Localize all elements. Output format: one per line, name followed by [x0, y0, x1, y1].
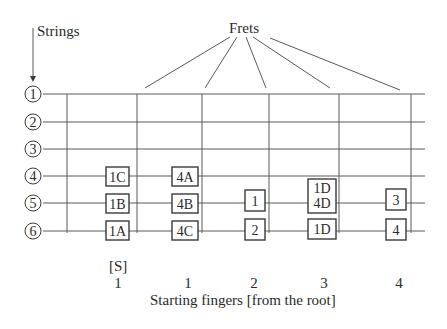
string-number-4: 4	[25, 168, 41, 184]
svg-text:4D: 4D	[313, 196, 330, 211]
svg-text:1: 1	[30, 87, 37, 102]
svg-text:2: 2	[30, 115, 37, 130]
finger-box: 1B	[106, 194, 129, 213]
finger-box: 2	[245, 219, 265, 240]
svg-text:4: 4	[30, 169, 37, 184]
strings-label: Strings	[37, 23, 80, 39]
arrow-down-icon	[30, 76, 36, 82]
frets-leader-lines	[145, 37, 400, 90]
finger-box: 1D4D	[308, 179, 336, 213]
s-marker-label: [S]	[109, 258, 127, 274]
string-number-circles: 123456	[25, 86, 41, 239]
svg-text:4A: 4A	[176, 170, 194, 185]
svg-text:4C: 4C	[177, 224, 193, 239]
fretboard-diagram: Strings Frets 123456 1C1B1A4A4B4C121D4D1…	[0, 0, 447, 329]
svg-text:2: 2	[252, 223, 259, 238]
finger-box: 1D	[308, 219, 336, 239]
svg-text:1: 1	[252, 194, 259, 209]
string-number-3: 3	[25, 141, 41, 157]
svg-text:3: 3	[30, 142, 37, 157]
svg-text:1D: 1D	[313, 222, 330, 237]
svg-text:4: 4	[393, 223, 400, 238]
string-number-5: 5	[25, 195, 41, 211]
finger-box: 4C	[172, 221, 198, 240]
finger-box: 1	[245, 190, 265, 211]
string-number-1: 1	[25, 86, 41, 102]
finger-box: 3	[386, 189, 406, 210]
finger-number: 4	[395, 275, 403, 291]
finger-box: 4A	[172, 167, 198, 186]
string-number-2: 2	[25, 114, 41, 130]
finger-number: 1	[184, 275, 192, 291]
svg-text:1B: 1B	[109, 197, 125, 212]
finger-box: 1A	[106, 221, 129, 240]
svg-text:5: 5	[30, 196, 37, 211]
svg-text:6: 6	[30, 224, 37, 239]
starting-finger-numbers: 11234	[114, 275, 403, 291]
finger-number: 3	[320, 275, 328, 291]
frets-label: Frets	[229, 20, 259, 36]
svg-text:1A: 1A	[109, 224, 127, 239]
svg-text:4B: 4B	[177, 197, 193, 212]
string-number-6: 6	[25, 223, 41, 239]
string-lines	[43, 94, 425, 231]
finger-box: 4B	[172, 194, 198, 213]
finger-number: 2	[250, 275, 258, 291]
caption: Starting fingers [from the root]	[150, 292, 336, 308]
svg-text:1C: 1C	[109, 170, 125, 185]
finger-box: 1C	[106, 167, 129, 186]
svg-text:3: 3	[393, 193, 400, 208]
finger-number: 1	[114, 275, 122, 291]
finger-box: 4	[386, 219, 406, 240]
svg-text:1D: 1D	[313, 181, 330, 196]
